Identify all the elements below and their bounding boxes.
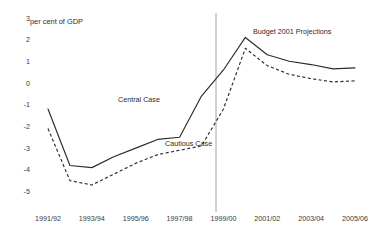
budget-projections-label: Budget 2001 Projections xyxy=(253,27,332,36)
y-tick-label: 2 xyxy=(26,35,30,44)
y-tick-label: 0 xyxy=(26,79,30,88)
x-tick-label: 1999/00 xyxy=(210,214,236,223)
chart-container: 3210-1-2-3-4-5 1991/921993/941995/961997… xyxy=(0,0,382,237)
y-axis-tick-labels: 3210-1-2-3-4-5 xyxy=(24,14,30,197)
line-chart: 3210-1-2-3-4-5 1991/921993/941995/961997… xyxy=(0,0,382,237)
y-tick-label: -4 xyxy=(24,165,30,174)
x-axis-tick-labels: 1991/921993/941995/961997/981999/002001/… xyxy=(35,214,368,223)
x-tick-label: 1997/98 xyxy=(167,214,193,223)
series-central-case xyxy=(48,37,355,167)
y-tick-label: -2 xyxy=(24,122,30,131)
y-tick-label: -3 xyxy=(24,144,30,153)
x-tick-label: 2005/06 xyxy=(342,214,368,223)
x-tick-label: 1995/96 xyxy=(123,214,149,223)
x-tick-label: 2001/02 xyxy=(254,214,280,223)
y-tick-label: -1 xyxy=(24,100,30,109)
y-tick-label: -5 xyxy=(24,187,30,196)
x-tick-label: 1993/94 xyxy=(79,214,105,223)
y-axis-unit-label: per cent of GDP xyxy=(30,17,83,26)
central-case-label: Central Case xyxy=(118,95,160,104)
cautious-case-label: Cautious Case xyxy=(165,139,212,148)
x-tick-label: 2003/04 xyxy=(298,214,324,223)
y-tick-label: 1 xyxy=(26,57,30,66)
series-cautious-case xyxy=(48,48,355,185)
x-tick-label: 1991/92 xyxy=(35,214,61,223)
